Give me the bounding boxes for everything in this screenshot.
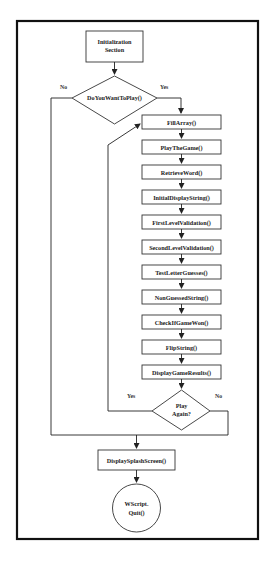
- svg-text:FlipString(): FlipString(): [166, 344, 197, 352]
- splash-label: DisplaySplashScreen(): [107, 457, 166, 465]
- play-again-label-1: Play: [176, 402, 189, 409]
- svg-text:InitialDisplayString(): InitialDisplayString(): [153, 194, 210, 202]
- svg-text:TestLetterGuesses(): TestLetterGuesses(): [155, 269, 207, 277]
- flowchart-canvas: Initialization Section DoYouWantToPlay()…: [0, 0, 273, 562]
- yes-label-top: Yes: [160, 84, 169, 90]
- step-display-game-results: DisplayGameResults(): [142, 365, 221, 379]
- step-fill-array: FillArray(): [142, 115, 221, 129]
- decision-play-again: Play Again?: [152, 390, 210, 430]
- end-terminal: WScript. Quit(): [113, 484, 161, 532]
- yes-label-bottom: Yes: [127, 393, 136, 399]
- svg-text:FillArray(): FillArray(): [167, 119, 196, 127]
- svg-text:DisplayGameResults(): DisplayGameResults(): [152, 369, 211, 377]
- svg-text:PlayTheGame(): PlayTheGame(): [161, 144, 203, 152]
- decision-play-label: DoYouWantToPlay(): [87, 94, 142, 102]
- svg-text:FirstLevelValidation(): FirstLevelValidation(): [152, 219, 211, 227]
- play-again-label-2: Again?: [172, 410, 191, 417]
- step-retrieve-word: RetrieveWord(): [142, 165, 221, 179]
- step-flip-string: FlipString(): [142, 340, 221, 354]
- svg-text:RetrieveWord(): RetrieveWord(): [161, 169, 203, 177]
- end-label-2: Quit(): [128, 509, 144, 517]
- initialization-label-2: Section: [105, 46, 125, 53]
- display-splash-screen-box: DisplaySplashScreen(): [98, 450, 175, 470]
- step-second-level-validation: SecondLevelValidation(): [142, 240, 221, 254]
- svg-text:NonGuessedString(): NonGuessedString(): [155, 294, 209, 302]
- step-check-if-game-won: CheckIfGameWon(): [142, 315, 221, 329]
- step-non-guessed-string: NonGuessedString(): [142, 290, 221, 304]
- step-test-letter-guesses: TestLetterGuesses(): [142, 265, 221, 279]
- svg-text:CheckIfGameWon(): CheckIfGameWon(): [155, 319, 209, 327]
- no-label-bottom: No: [215, 393, 222, 399]
- no-label-top: No: [60, 84, 67, 90]
- process-steps: FillArray() PlayTheGame() RetrieveWord()…: [142, 115, 221, 388]
- step-first-level-validation: FirstLevelValidation(): [142, 215, 221, 229]
- initialization-label-1: Initialization: [97, 38, 132, 45]
- end-label-1: WScript.: [125, 500, 149, 507]
- initialization-box: Initialization Section: [86, 31, 143, 62]
- step-initial-display-string: InitialDisplayString(): [142, 190, 221, 204]
- svg-text:SecondLevelValidation(): SecondLevelValidation(): [149, 244, 214, 252]
- step-play-the-game: PlayTheGame(): [142, 140, 221, 154]
